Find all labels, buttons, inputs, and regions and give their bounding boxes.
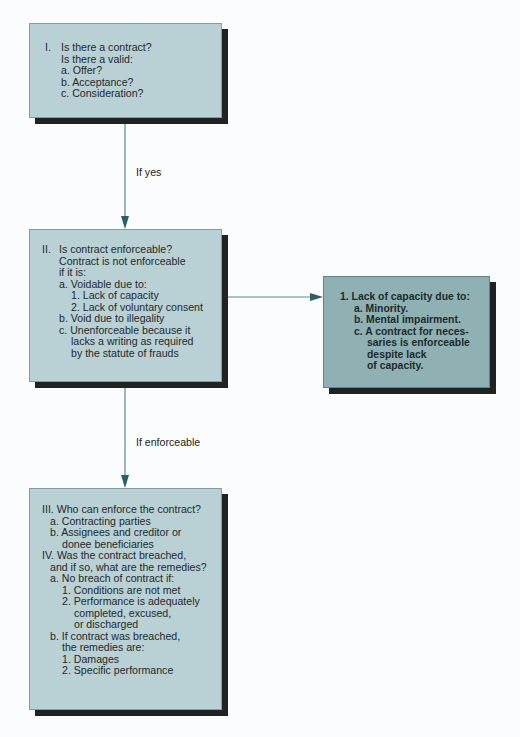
- box2-line: by the statute of frauds: [71, 348, 179, 359]
- box-lack-of-capacity: 1. Lack of capacity due to: a. Minority.…: [323, 276, 490, 388]
- arrowhead-down-icon: [121, 475, 129, 488]
- side-box-line: 1. Lack of capacity due to:: [340, 291, 470, 302]
- side-box-line: of capacity.: [367, 360, 423, 371]
- edge-label-if-enforceable: If enforceable: [136, 436, 200, 448]
- side-box-line: despite lack: [367, 349, 427, 360]
- box2-line: b. Void due to illegality: [59, 313, 164, 324]
- box1-number: I.: [45, 42, 51, 53]
- side-box-line: saries is enforceable: [367, 337, 470, 348]
- box3-line: b. Assignees and creditor or: [50, 527, 181, 538]
- box-is-there-a-contract: I. Is there a contract? Is there a valid…: [29, 23, 222, 118]
- box3-line: the remedies are:: [62, 642, 144, 653]
- side-box-line: c. A contract for neces-: [354, 326, 469, 337]
- box3-line: IV. Was the contract breached,: [42, 550, 186, 561]
- box3-line: 2. Performance is adequately: [62, 596, 200, 607]
- box2-number: II.: [42, 244, 51, 255]
- box3-line: a. No breach of contract if:: [50, 573, 174, 584]
- box-is-contract-enforceable: II. Is contract enforceable? Contract is…: [29, 229, 222, 382]
- box1-line: Is there a contract?: [61, 42, 152, 53]
- box-enforcement-and-remedies: III. Who can enforce the contract? a. Co…: [29, 488, 222, 710]
- box3-line: III. Who can enforce the contract?: [42, 504, 201, 515]
- box2-line: Is contract enforceable?: [59, 244, 172, 255]
- box3-line: or discharged: [74, 619, 138, 630]
- box2-line: if it is:: [59, 267, 86, 278]
- box1-line: a. Offer?: [61, 65, 102, 76]
- box1-line: c. Consideration?: [61, 88, 143, 99]
- edge-label-if-yes: If yes: [136, 166, 161, 178]
- side-box-line: b. Mental impairment.: [354, 314, 461, 325]
- box2-line: lacks a writing as required: [71, 336, 193, 347]
- box3-line: 2. Specific performance: [62, 665, 173, 676]
- arrowhead-down-icon: [121, 216, 129, 229]
- box2-line-lack-of-capacity: 1. Lack of capacity: [71, 290, 159, 301]
- arrowhead-right-icon: [310, 293, 323, 301]
- side-box-line: a. Minority.: [354, 303, 408, 314]
